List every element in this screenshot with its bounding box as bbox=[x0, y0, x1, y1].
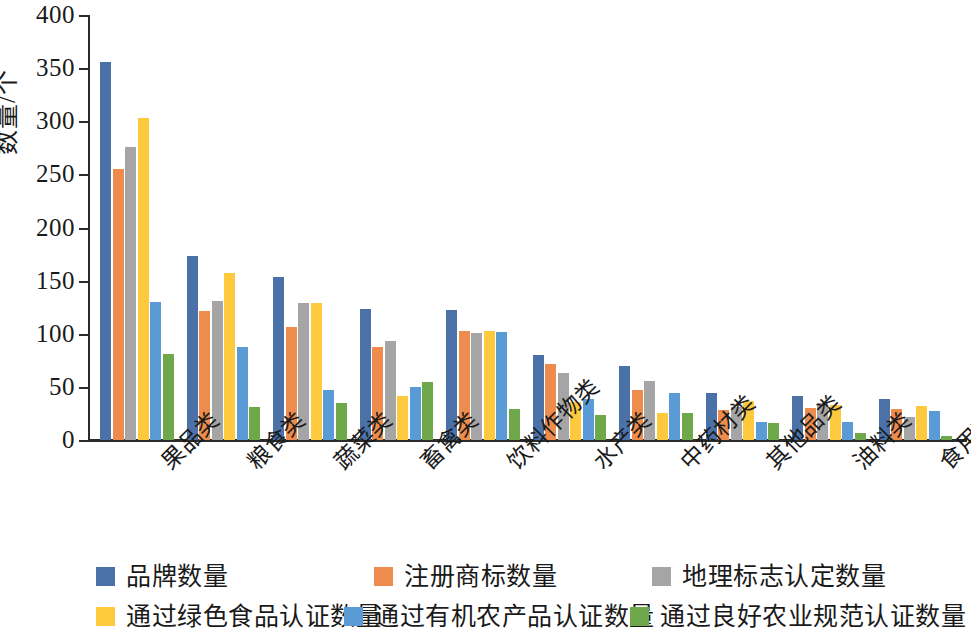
y-tick-label: 0 bbox=[62, 427, 75, 452]
bar bbox=[224, 273, 235, 440]
bar bbox=[855, 433, 866, 440]
bar bbox=[336, 403, 347, 440]
bar bbox=[941, 436, 952, 440]
y-tick-label: 350 bbox=[36, 55, 75, 80]
bar bbox=[595, 415, 606, 441]
bar bbox=[496, 332, 507, 440]
bar bbox=[422, 382, 433, 440]
legend-item[interactable]: 注册商标数量 bbox=[374, 564, 557, 589]
bar-group bbox=[360, 15, 435, 440]
y-tick-label: 200 bbox=[36, 214, 75, 239]
bar bbox=[150, 302, 161, 440]
x-axis-category-label: 中药材类 bbox=[671, 452, 695, 476]
bar-group bbox=[273, 15, 348, 440]
bar-group bbox=[792, 15, 867, 440]
y-tick-label: 150 bbox=[36, 267, 75, 292]
plot-area bbox=[88, 15, 965, 440]
legend-swatch-icon bbox=[96, 567, 115, 586]
y-tick-mark bbox=[79, 121, 88, 123]
y-tick-mark bbox=[79, 440, 88, 442]
x-axis-category-label: 其他品类 bbox=[757, 452, 781, 476]
chart-legend: 品牌数量注册商标数量地理标志认定数量通过绿色食品认证数量通过有机农产品认证数量通… bbox=[96, 564, 971, 640]
legend-swatch-icon bbox=[374, 567, 393, 586]
x-axis-category-label: 蔬菜类 bbox=[325, 452, 349, 476]
bar-group bbox=[533, 15, 608, 440]
y-axis-title: 数量/个 bbox=[0, 69, 22, 155]
x-axis-category-label: 粮食类 bbox=[238, 452, 262, 476]
legend-swatch-icon bbox=[96, 607, 115, 626]
bar bbox=[657, 413, 668, 440]
x-axis-category-label: 油料类 bbox=[844, 452, 868, 476]
x-axis-category-label: 饮料作物类 bbox=[498, 452, 522, 476]
legend-label: 品牌数量 bbox=[126, 564, 228, 589]
bar-group bbox=[879, 15, 954, 440]
y-tick-mark bbox=[79, 387, 88, 389]
bar bbox=[163, 354, 174, 440]
y-tick-mark bbox=[79, 68, 88, 70]
y-tick-mark bbox=[79, 15, 88, 17]
bar bbox=[682, 413, 693, 440]
bar-group bbox=[187, 15, 262, 440]
bar-group bbox=[446, 15, 521, 440]
y-tick-label: 400 bbox=[36, 2, 75, 27]
bar bbox=[323, 390, 334, 440]
x-axis-category-label: 水产类 bbox=[584, 452, 608, 476]
legend-swatch-icon bbox=[344, 607, 363, 626]
bar bbox=[125, 147, 136, 440]
legend-item[interactable]: 地理标志认定数量 bbox=[652, 564, 886, 589]
legend-label: 注册商标数量 bbox=[404, 564, 557, 589]
legend-swatch-icon bbox=[652, 567, 671, 586]
bar bbox=[410, 387, 421, 440]
y-tick-mark bbox=[79, 281, 88, 283]
bar bbox=[100, 62, 111, 440]
y-tick-mark bbox=[79, 228, 88, 230]
bar-chart: 数量/个 050100150200250300350400 果品类粮食类蔬菜类畜… bbox=[0, 0, 971, 640]
x-axis-category-label: 畜禽类 bbox=[411, 452, 435, 476]
bar bbox=[311, 303, 322, 440]
bar bbox=[187, 256, 198, 440]
legend-label: 地理标志认定数量 bbox=[682, 564, 886, 589]
bar bbox=[756, 422, 767, 440]
legend-item[interactable]: 通过良好农业规范认证数量 bbox=[630, 604, 966, 629]
legend-swatch-icon bbox=[630, 607, 649, 626]
bar bbox=[916, 406, 927, 440]
bar bbox=[669, 393, 680, 440]
legend-item[interactable]: 品牌数量 bbox=[96, 564, 228, 589]
bar bbox=[509, 409, 520, 440]
y-tick-label: 300 bbox=[36, 108, 75, 133]
bar bbox=[484, 331, 495, 440]
x-axis-category-label: 食用菌类 bbox=[930, 452, 954, 476]
y-tick-label: 100 bbox=[36, 321, 75, 346]
bar-group bbox=[100, 15, 175, 440]
bar-group bbox=[619, 15, 694, 440]
legend-label: 通过有机农产品认证数量 bbox=[374, 604, 655, 629]
bar bbox=[842, 422, 853, 440]
bar bbox=[397, 396, 408, 440]
legend-item[interactable]: 通过绿色食品认证数量 bbox=[96, 604, 381, 629]
bar bbox=[929, 411, 940, 440]
legend-label: 通过良好农业规范认证数量 bbox=[660, 604, 966, 629]
bar bbox=[113, 169, 124, 440]
y-tick-label: 250 bbox=[36, 161, 75, 186]
bar bbox=[768, 423, 779, 440]
bar-group bbox=[706, 15, 781, 440]
y-tick-label: 50 bbox=[49, 374, 75, 399]
y-tick-mark bbox=[79, 334, 88, 336]
y-tick-mark bbox=[79, 174, 88, 176]
bar bbox=[237, 347, 248, 441]
x-axis-category-label: 果品类 bbox=[152, 452, 176, 476]
bar bbox=[249, 407, 260, 440]
bar bbox=[138, 118, 149, 440]
legend-label: 通过绿色食品认证数量 bbox=[126, 604, 381, 629]
legend-item[interactable]: 通过有机农产品认证数量 bbox=[344, 604, 655, 629]
